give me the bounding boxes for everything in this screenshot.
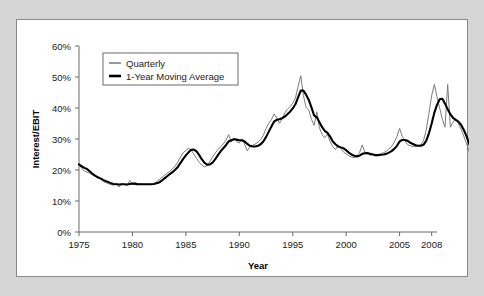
y-axis-title: Interest/EBIT [30, 110, 41, 169]
x-axis-title: Year [248, 260, 268, 271]
series-line-moving-average [79, 91, 469, 185]
interest-ebit-chart: 0%10%20%30%40%50%60% 1975198019851990199… [17, 20, 469, 276]
y-tick-label: 10% [52, 196, 72, 207]
x-axis-ticks: 19751980198519901995200020052008 [68, 232, 442, 250]
figure-frame: 0%10%20%30%40%50%60% 1975198019851990199… [16, 19, 468, 277]
y-tick-label: 0% [57, 227, 71, 238]
y-tick-label: 30% [52, 134, 72, 145]
x-tick-label: 1980 [122, 239, 143, 250]
x-tick-label: 1990 [229, 239, 250, 250]
x-tick-label: 2008 [421, 239, 442, 250]
x-tick-label: 1985 [175, 239, 196, 250]
legend-label-moving-average: 1-Year Moving Average [126, 71, 224, 82]
y-tick-label: 50% [52, 72, 72, 83]
x-tick-label: 1995 [282, 239, 303, 250]
y-tick-label: 40% [52, 103, 72, 114]
x-tick-label: 2000 [336, 239, 357, 250]
y-tick-label: 60% [52, 41, 72, 52]
y-axis-ticks: 0%10%20%30%40%50%60% [52, 41, 79, 238]
y-tick-label: 20% [52, 165, 72, 176]
chart-legend: Quarterly 1-Year Moving Average [103, 53, 238, 85]
x-tick-label: 2005 [389, 239, 410, 250]
legend-label-quarterly: Quarterly [126, 58, 165, 69]
x-tick-label: 1975 [68, 239, 89, 250]
